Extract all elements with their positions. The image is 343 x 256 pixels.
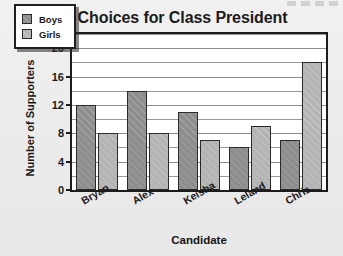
bar-bryan-boys (76, 105, 96, 190)
y-tick-label: 0 (24, 184, 64, 196)
y-tick-label: 16 (24, 71, 64, 83)
legend-swatch-boys-icon (22, 14, 32, 24)
bar-bryan-girls (98, 133, 118, 190)
y-tick-label: 4 (24, 156, 64, 168)
y-tick-label: 8 (24, 127, 64, 139)
chart-legend: Boys Girls (14, 4, 76, 49)
legend-label-girls: Girls (39, 29, 61, 40)
bar-chris-girls (302, 62, 322, 190)
bar-keisha-boys (178, 112, 198, 190)
legend-entry-boys: Boys (22, 12, 62, 26)
bar-chris-boys (280, 140, 300, 190)
bar-leland-boys (229, 147, 249, 190)
x-axis-title: Candidate (70, 234, 328, 246)
bar-alex-boys (127, 91, 147, 190)
bars-layer (72, 34, 326, 190)
plot-inner (72, 34, 326, 190)
legend-label-boys: Boys (39, 14, 62, 25)
bar-alex-girls (149, 133, 169, 190)
scan-artifact (287, 1, 339, 6)
legend-swatch-girls-icon (22, 29, 32, 39)
plot-area (70, 32, 328, 192)
chart-screenshot: Choices for Class President Number of Su… (0, 0, 343, 256)
y-tick-label: 12 (24, 99, 64, 111)
legend-entry-girls: Girls (22, 27, 62, 41)
y-axis-title: Number of Supporters (24, 43, 36, 193)
